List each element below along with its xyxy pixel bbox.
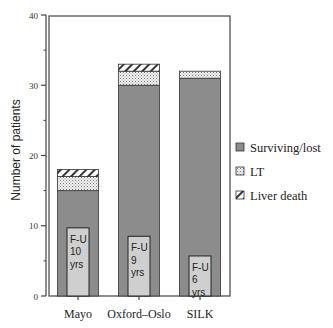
annotation-line: yrs (70, 259, 83, 270)
x-tick-label: Oxford–Oslo (107, 307, 170, 321)
legend-label: Surviving/lost (250, 141, 321, 155)
y-tick-label: 30 (29, 81, 39, 91)
annotation-line: 6 (192, 274, 198, 285)
annotation-line: F-U (192, 262, 209, 273)
bar-silk: F-U6yrs (180, 71, 221, 298)
follow-up-annotation: F-U9yrs (128, 236, 150, 296)
bar-segment-dots (180, 71, 221, 78)
bar-segment-dots (58, 177, 99, 191)
bar-oxford-oslo: F-U9yrs (119, 64, 160, 296)
y-tick-label: 10 (29, 221, 39, 231)
x-tick-label: Mayo (64, 307, 92, 321)
y-tick-label: 40 (29, 11, 39, 21)
legend-swatch (236, 167, 244, 175)
y-tick-label: 20 (29, 151, 39, 161)
follow-up-annotation: F-U10yrs (67, 228, 89, 296)
bar-segment-hatch (119, 64, 160, 71)
x-tick-label: SILK (187, 307, 214, 321)
annotation-line: F-U (70, 234, 87, 245)
bar-mayo: F-U10yrs (58, 170, 99, 296)
legend-item-lt: LT (236, 165, 264, 179)
annotation-line: 10 (70, 246, 82, 257)
follow-up-annotation: F-U6yrs (189, 256, 211, 298)
y-tick-label: 0 (34, 292, 39, 302)
annotation-line: F-U (131, 242, 148, 253)
bars: F-U10yrsF-U9yrsF-U6yrs (58, 64, 221, 298)
annotation-line: 9 (131, 255, 137, 266)
annotation-line: yrs (192, 287, 205, 298)
legend-item-liver-death: Liver death (236, 189, 308, 203)
legend-swatch (236, 191, 244, 199)
y-axis: 010203040 (29, 11, 46, 302)
legend-label: LT (250, 165, 264, 179)
bar-segment-hatch (58, 170, 99, 177)
legend: Surviving/lostLTLiver death (236, 141, 321, 203)
y-axis-label: Number of patients (9, 99, 23, 200)
x-axis: MayoOxford–OsloSILK (64, 296, 214, 321)
stacked-bar-chart: Number of patients 010203040 F-U10yrsF-U… (0, 0, 333, 328)
legend-label: Liver death (250, 189, 308, 203)
legend-swatch (236, 143, 244, 151)
bar-segment-dots (119, 71, 160, 85)
annotation-line: yrs (131, 267, 144, 278)
legend-item-surviving-lost: Surviving/lost (236, 141, 321, 155)
